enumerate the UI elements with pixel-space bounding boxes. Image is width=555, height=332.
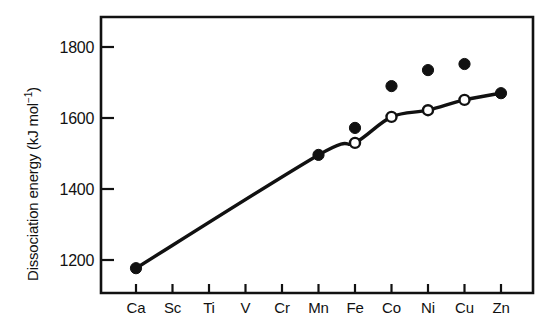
data-point-filled-zn xyxy=(495,88,506,99)
data-point-open-ni xyxy=(423,105,433,115)
data-point-filled-mn xyxy=(313,149,324,160)
y-tick-label-1200: 1200 xyxy=(60,252,95,269)
x-tick-label-v: V xyxy=(241,299,251,316)
trend-curve xyxy=(136,93,501,268)
x-tick-label-sc: Sc xyxy=(164,299,182,316)
x-tick-label-ca: Ca xyxy=(127,299,147,316)
y-tick-label-1600: 1600 xyxy=(60,110,95,127)
x-axis-tick-labels: Ca Sc Ti V Cr Mn Fe Co Ni Cu Zn xyxy=(127,299,510,316)
data-point-filled-fe xyxy=(349,122,360,133)
y-axis-tick-labels: 1800 1600 1400 1200 xyxy=(60,39,95,269)
data-point-open-cu xyxy=(460,95,470,105)
trend-curve-path xyxy=(136,93,501,268)
x-tick-label-zn: Zn xyxy=(492,299,509,316)
y-axis-title: Dissociation energy (kJ mol−1) xyxy=(23,87,41,281)
filled-circle-series xyxy=(130,58,506,273)
x-axis-ticks xyxy=(136,284,501,293)
x-tick-label-ni: Ni xyxy=(421,299,435,316)
figure-container: 1800 1600 1400 1200 Dissociation energy … xyxy=(0,0,555,332)
x-tick-label-co: Co xyxy=(382,299,401,316)
y-axis-title-close: ) xyxy=(24,87,41,92)
x-tick-label-fe: Fe xyxy=(346,299,363,316)
x-tick-label-cu: Cu xyxy=(455,299,474,316)
svg-text:Dissociation energy (kJ mol−1): Dissociation energy (kJ mol−1) xyxy=(23,87,41,281)
data-point-open-fe xyxy=(350,138,360,148)
data-point-filled-ca xyxy=(130,263,141,274)
x-tick-label-mn: Mn xyxy=(308,299,328,316)
data-point-filled-cu xyxy=(459,58,470,69)
dissociation-energy-chart: 1800 1600 1400 1200 Dissociation energy … xyxy=(0,0,555,332)
x-tick-label-cr: Cr xyxy=(274,299,290,316)
y-tick-label-1400: 1400 xyxy=(60,181,95,198)
data-point-filled-ni xyxy=(422,65,433,76)
y-tick-label-1800: 1800 xyxy=(60,39,95,56)
data-point-open-co xyxy=(387,112,397,122)
y-axis-ticks xyxy=(101,47,114,260)
data-point-filled-co xyxy=(386,81,397,92)
y-axis-title-superscript: −1 xyxy=(23,91,34,103)
y-axis-title-main: Dissociation energy (kJ mol xyxy=(24,103,41,281)
x-tick-label-ti: Ti xyxy=(203,299,215,316)
